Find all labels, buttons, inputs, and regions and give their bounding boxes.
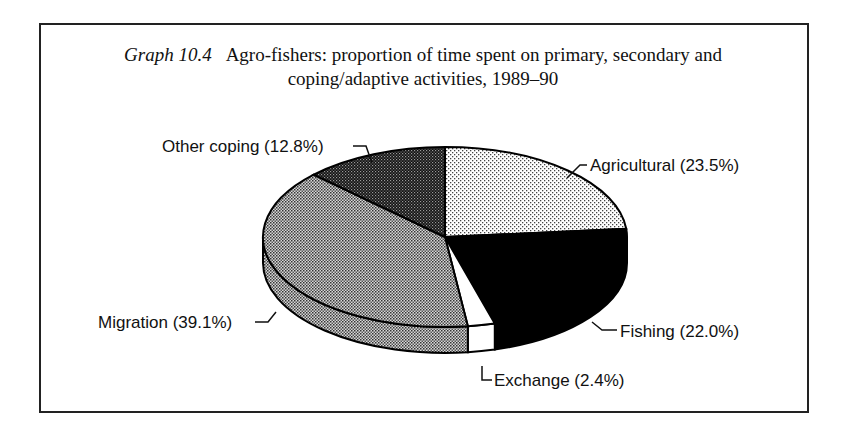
label-migration: Migration (39.1%): [98, 313, 232, 332]
leader-migration: [255, 312, 276, 322]
label-agricultural: Agricultural (23.5%): [590, 156, 739, 175]
pie-top-slices: [263, 147, 627, 327]
label-fishing: Fishing (22.0%): [620, 322, 739, 341]
label-other-coping: Other coping (12.8%): [162, 137, 324, 156]
side-exchange: [468, 324, 495, 353]
leader-fishing: [592, 322, 617, 330]
pie-chart: Other coping (12.8%) Agricultural (23.5%…: [0, 0, 846, 441]
leader-exchange: [482, 366, 492, 380]
label-exchange: Exchange (2.4%): [494, 371, 624, 390]
